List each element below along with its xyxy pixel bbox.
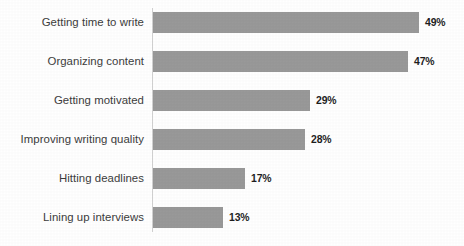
bar-group: 13% [153,206,250,228]
bar-row: Getting time to write 49% [0,11,464,33]
category-label: Getting motivated [0,89,144,111]
bar-group: 47% [153,50,435,72]
category-label: Organizing content [0,50,144,72]
bar-value-label: 47% [414,51,435,72]
bar-row: Getting motivated 29% [0,89,464,111]
bar [153,12,419,33]
plot-area: Getting time to write 49% Organizing con… [0,0,464,246]
bar [153,168,245,189]
bar-rows: Getting time to write 49% Organizing con… [0,0,464,246]
bar-group: 49% [153,11,446,33]
bar-row: Hitting deadlines 17% [0,167,464,189]
bar-group: 17% [153,167,272,189]
bar-group: 29% [153,89,337,111]
bar-value-label: 29% [316,90,337,111]
bar [153,90,310,111]
bar-value-label: 28% [311,129,332,150]
bar-row: Improving writing quality 28% [0,128,464,150]
bar-value-label: 49% [425,12,446,33]
bar-chart: Getting time to write 49% Organizing con… [0,0,464,246]
bar-value-label: 13% [229,207,250,228]
bar-group: 28% [153,128,332,150]
bar-value-label: 17% [251,168,272,189]
category-label: Getting time to write [0,11,144,33]
category-label: Lining up interviews [0,206,144,228]
bar [153,51,408,72]
category-label: Hitting deadlines [0,167,144,189]
category-label: Improving writing quality [0,128,144,150]
bar [153,129,305,150]
bar-row: Organizing content 47% [0,50,464,72]
bar-row: Lining up interviews 13% [0,206,464,228]
bar [153,207,223,228]
